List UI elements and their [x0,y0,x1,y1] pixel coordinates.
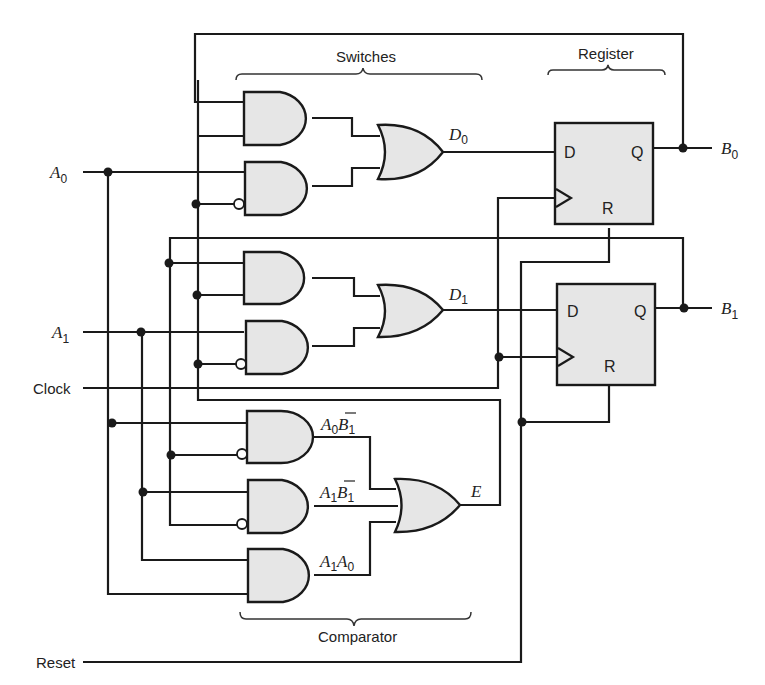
input-label-reset: Reset [36,654,76,671]
and-gate-sw1-a [244,252,304,304]
and-gate-sw1-b [246,321,308,374]
and-gate-cmp-1 [247,411,313,463]
dff0-pin-r: R [602,200,614,217]
inverter-bubble-icon [237,519,247,529]
or-gate-d0 [378,125,443,180]
and-gate-sw0-a [244,92,306,145]
register-group [555,123,655,385]
input-label-a1: A1 [51,323,69,346]
register-label: Register [578,45,634,62]
signal-label-d0: D0 [448,125,468,147]
dff0-pin-q: Q [631,144,643,161]
dff1-pin-d: D [567,303,579,320]
or-gate-e [395,479,460,532]
comparator-label: Comparator [318,628,397,645]
input-label-clock: Clock [33,380,71,397]
and-gate-sw0-b [245,162,307,215]
signal-label-a0-b1bar: A0B1 [320,415,355,437]
inverter-bubble-icon [237,449,247,459]
output-label-b1: B1 [721,299,738,322]
inverter-bubble-icon [234,199,244,209]
switches-group [234,92,443,374]
or-gate-d1 [378,285,443,337]
inverter-bubble-icon [236,359,246,369]
circuit-diagram: Switches Register Comparator A0 A1 Clock… [0,0,765,685]
comparator-brace [240,612,471,626]
signal-label-a1-a0: A1A0 [319,552,354,574]
signal-label-a1-b1bar: A1B1 [319,483,354,505]
signal-label-d1: D1 [448,285,468,307]
input-label-a0: A0 [49,163,67,186]
dff0-pin-d: D [564,144,576,161]
dff1-pin-q: Q [634,303,646,320]
and-gate-cmp-2 [248,480,308,533]
dff1-pin-r: R [604,358,616,375]
switches-label: Switches [336,48,396,65]
and-gate-cmp-3 [248,549,309,602]
switches-brace [236,68,482,80]
output-label-b0: B0 [721,139,738,162]
register-brace [548,65,665,75]
output-label-e: E [470,482,482,501]
